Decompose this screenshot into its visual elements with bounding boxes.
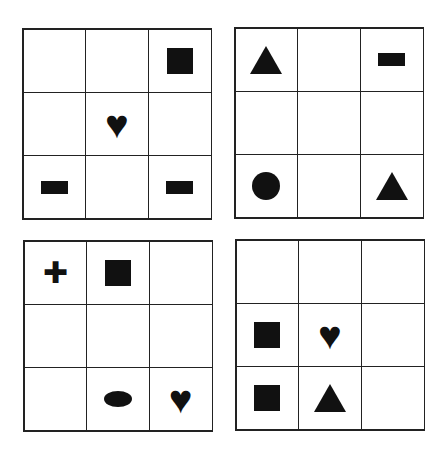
cross-icon: ✚	[43, 258, 68, 288]
grid-cell	[298, 366, 362, 430]
grid-bottom-right: ♥	[235, 239, 425, 431]
grid-cell	[235, 91, 299, 155]
square-icon	[254, 385, 280, 411]
grid-cell	[148, 155, 212, 219]
square-icon	[105, 260, 131, 286]
grid-cell: ♥	[85, 92, 149, 156]
grid-bottom-left: ✚♥	[23, 240, 213, 432]
grid-cell	[360, 91, 424, 155]
grid-cell	[297, 28, 361, 92]
square-icon	[254, 322, 280, 348]
grid-top-left: ♥	[22, 28, 212, 220]
oval-icon	[104, 391, 132, 407]
grid-cell	[149, 304, 213, 368]
grid-cell	[86, 304, 150, 368]
grid-cell	[297, 154, 361, 218]
grid-cell	[149, 241, 213, 305]
grid-cell	[23, 92, 87, 156]
grid-cell	[86, 241, 150, 305]
grid-cell	[361, 240, 425, 304]
heart-icon: ♥	[105, 104, 129, 144]
grid-cell	[148, 92, 212, 156]
grid-cell	[236, 240, 300, 304]
bar-icon	[41, 181, 68, 194]
grid-cell	[361, 366, 425, 430]
grid-cell	[24, 304, 88, 368]
grid-cell: ♥	[149, 367, 213, 431]
bar-icon	[166, 181, 193, 194]
bar-icon	[378, 53, 405, 66]
grid-cell	[360, 154, 424, 218]
triangle-icon	[376, 172, 408, 200]
grid-cell	[85, 29, 149, 93]
grid-cell	[23, 29, 87, 93]
heart-icon: ♥	[169, 379, 193, 419]
grid-cell	[236, 303, 300, 367]
grid-cell	[361, 303, 425, 367]
grid-cell	[148, 29, 212, 93]
grid-cell: ✚	[24, 241, 88, 305]
grid-top-right	[234, 27, 424, 219]
grid-cell	[236, 366, 300, 430]
grid-cell: ♥	[298, 303, 362, 367]
grid-cell	[297, 91, 361, 155]
triangle-icon	[314, 384, 346, 412]
grid-cell	[298, 240, 362, 304]
circle-icon	[252, 172, 280, 200]
grid-cell	[85, 155, 149, 219]
grid-cell	[235, 154, 299, 218]
heart-icon: ♥	[318, 315, 342, 355]
grid-cell	[86, 367, 150, 431]
grid-cell	[23, 155, 87, 219]
triangle-icon	[250, 46, 282, 74]
grid-cell	[360, 28, 424, 92]
grid-cell	[24, 367, 88, 431]
square-icon	[167, 48, 193, 74]
grid-cell	[235, 28, 299, 92]
